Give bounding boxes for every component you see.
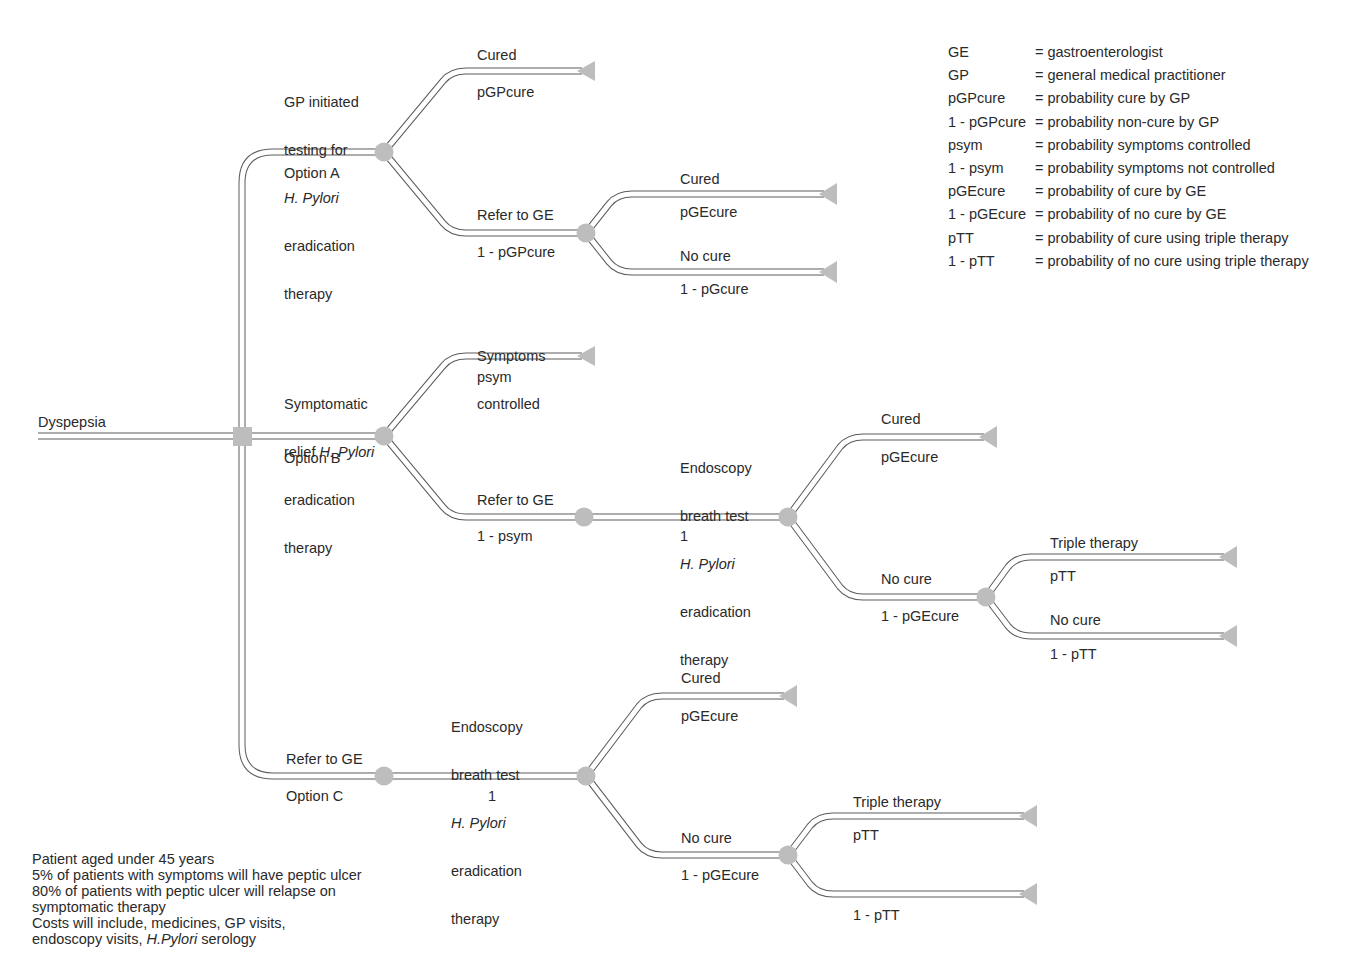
option-b-action-line: eradication <box>284 492 374 508</box>
legend-term: psym <box>948 136 1035 159</box>
option-c-endoscopy-line: Endoscopy <box>451 719 523 735</box>
legend-row: psym= probability symptoms controlled <box>948 136 1309 159</box>
terminal-triangle-icon <box>1019 805 1037 827</box>
option-b-endoscopy-prob: 1 <box>680 528 688 544</box>
note-line: 80% of patients with peptic ulcer will r… <box>32 883 362 899</box>
note-line: endoscopy visits, H.Pylori serology <box>32 931 362 947</box>
terminal-triangle-icon <box>819 183 837 205</box>
option-a-ge-cured-outcome: Cured <box>680 171 720 187</box>
legend-row: 1 - pTT= probability of no cure using tr… <box>948 252 1309 275</box>
legend-definition: = probability cure by GP <box>1035 89 1190 112</box>
option-c-ge-nocure-prob: 1 - pGEcure <box>681 867 759 883</box>
legend-definition: = probability of cure by GE <box>1035 182 1206 205</box>
legend-row: GE= gastroenterologist <box>948 43 1309 66</box>
assumptions-notes: Patient aged under 45 years 5% of patien… <box>32 851 362 947</box>
legend-row: pGPcure= probability cure by GP <box>948 89 1309 112</box>
note-prefix: endoscopy visits, <box>32 931 146 947</box>
option-a-refer-outcome: Refer to GE <box>477 207 554 223</box>
option-c-endoscopy-line: therapy <box>451 911 523 927</box>
legend-row: 1 - psym= probability symptoms not contr… <box>948 159 1309 182</box>
note-line: Costs will include, medicines, GP visits… <box>32 915 362 931</box>
option-b-refer-prob: 1 - psym <box>477 528 533 544</box>
legend-definition: = probability of cure using triple thera… <box>1035 229 1289 252</box>
option-a-cured-outcome: Cured <box>477 47 517 63</box>
terminal-triangle-icon <box>1219 625 1237 647</box>
legend-definition: = probability of no cure using triple th… <box>1035 252 1309 275</box>
legend-row: pTT= probability of cure using triple th… <box>948 229 1309 252</box>
option-c-endoscopy-prob: 1 <box>488 788 496 804</box>
option-a-action-line: testing for <box>284 142 359 158</box>
note-italic: H.Pylori <box>146 931 197 947</box>
legend-term: pGPcure <box>948 89 1035 112</box>
option-a-refer-prob: 1 - pGPcure <box>477 244 555 260</box>
option-b-endoscopy-line: eradication <box>680 604 752 620</box>
legend-definition: = gastroenterologist <box>1035 43 1163 66</box>
legend-term: pTT <box>948 229 1035 252</box>
option-a-action-line: therapy <box>284 286 359 302</box>
option-b-tt-nocure-prob: 1 - pTT <box>1050 646 1097 662</box>
option-c-label: Option C <box>286 788 343 804</box>
note-line: Patient aged under 45 years <box>32 851 362 867</box>
option-b-refer-outcome: Refer to GE <box>477 492 554 508</box>
option-c-endoscopy-line: eradication <box>451 863 523 879</box>
option-b-sym-outcome-line: Symptoms <box>477 348 546 364</box>
chance-node-optC-refer <box>375 767 394 786</box>
option-b-endoscopy-action: Endoscopy breath test H. Pylori eradicat… <box>680 428 752 684</box>
option-c-action: Refer to GE <box>286 751 363 767</box>
legend-definition: = probability symptoms controlled <box>1035 136 1251 159</box>
chance-node-optB-refer <box>575 508 594 527</box>
chance-node-optB-nocure <box>977 588 996 607</box>
chance-node-optC-endoscopy <box>577 767 596 786</box>
option-a-cured-prob: pGPcure <box>477 84 534 100</box>
option-b-ge-cured-outcome: Cured <box>881 411 921 427</box>
chance-node-optB <box>375 427 394 446</box>
legend-term: 1 - psym <box>948 159 1035 182</box>
option-b-sym-outcome-line: controlled <box>477 396 546 412</box>
option-b-tt-outcome: Triple therapy <box>1050 535 1138 551</box>
option-a-ge-nocure-prob: 1 - pGcure <box>680 281 749 297</box>
option-c-tt-nocure-prob: 1 - pTT <box>853 907 900 923</box>
legend-row: 1 - pGEcure= probability of no cure by G… <box>948 205 1309 228</box>
option-b-endoscopy-line: therapy <box>680 652 752 668</box>
terminal-triangle-icon <box>1019 883 1037 905</box>
legend-term: 1 - pGPcure <box>948 113 1035 136</box>
legend-definition: = probability symptoms not controlled <box>1035 159 1275 182</box>
option-c-endoscopy-line: H. Pylori <box>451 815 523 831</box>
option-b-ge-cured-prob: pGEcure <box>881 449 938 465</box>
option-b-action-line: Symptomatic <box>284 396 374 412</box>
option-a-action: GP initiated testing for H. Pylori eradi… <box>284 62 359 318</box>
terminal-triangle-icon <box>577 346 595 366</box>
option-c-endoscopy-action: Endoscopy breath test H. Pylori eradicat… <box>451 687 523 943</box>
option-b-tt-nocure-outcome: No cure <box>1050 612 1101 628</box>
legend-definition: = probability non-cure by GP <box>1035 113 1219 136</box>
chance-node-optA <box>375 143 394 162</box>
terminal-triangle-icon <box>979 426 997 448</box>
option-b-endoscopy-line: H. Pylori <box>680 556 752 572</box>
legend-definition: = general medical practitioner <box>1035 66 1226 89</box>
option-a-action-line: GP initiated <box>284 94 359 110</box>
terminal-triangle-icon <box>577 61 595 81</box>
option-a-action-line: H. Pylori <box>284 190 359 206</box>
option-b-tt-prob: pTT <box>1050 568 1076 584</box>
chance-node-optA-refer <box>577 224 596 243</box>
option-b-endoscopy-line: Endoscopy <box>680 460 752 476</box>
option-b-endoscopy-line: breath test <box>680 508 752 524</box>
option-b-action: Symptomatic relief H. Pylori eradication… <box>284 364 374 572</box>
option-c-ge-cured-outcome: Cured <box>681 670 721 686</box>
decision-node-square <box>233 427 252 446</box>
legend-term: pGEcure <box>948 182 1035 205</box>
terminal-triangle-icon <box>1219 546 1237 568</box>
legend-definition: = probability of no cure by GE <box>1035 205 1226 228</box>
option-b-action-line: therapy <box>284 540 374 556</box>
option-a-ge-nocure-outcome: No cure <box>680 248 731 264</box>
option-a-label: Option A <box>284 165 340 181</box>
option-b-ge-nocure-prob: 1 - pGEcure <box>881 608 959 624</box>
note-line: symptomatic therapy <box>32 899 362 915</box>
terminal-triangle-icon <box>779 685 797 707</box>
chance-node-optB-endoscopy <box>779 508 798 527</box>
option-c-endoscopy-line: breath test <box>451 767 523 783</box>
note-line: 5% of patients with symptoms will have p… <box>32 867 362 883</box>
legend: GE= gastroenterologist GP= general medic… <box>948 43 1309 275</box>
option-c-tt-outcome: Triple therapy <box>853 794 941 810</box>
legend-row: 1 - pGPcure= probability non-cure by GP <box>948 113 1309 136</box>
